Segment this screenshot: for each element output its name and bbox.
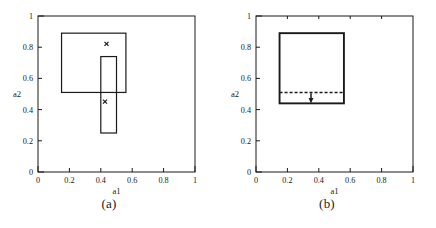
y-ticks-a (38, 16, 44, 172)
x-tick-label: 0.6 (345, 176, 355, 185)
y-tick-label: 0.4 (23, 106, 33, 115)
panel-b: 0 0.2 0.4 0.6 0.8 1 0 0.2 0.4 0.6 0.8 1 … (218, 0, 436, 228)
y-tick-label: 0.6 (241, 74, 251, 83)
x-tick-label: 0.8 (376, 176, 386, 185)
y-tick-label: 0 (247, 168, 251, 177)
y-tick-label: 0.8 (241, 43, 251, 52)
x-axis-title-b: a1 (330, 186, 338, 196)
x-tick-label: 0.8 (158, 176, 168, 185)
y-tick-label: 1 (29, 12, 33, 21)
x-tick-label: 0 (254, 176, 258, 185)
y-axis-title-a: a2 (13, 89, 21, 99)
y-tick-label: 0.4 (241, 106, 251, 115)
x-tick-label: 1 (193, 176, 197, 185)
down-arrow-icon (309, 93, 314, 103)
x-tick-label: 0.6 (127, 176, 137, 185)
x-tick-label: 0.2 (64, 176, 74, 185)
x-ticks-b (256, 166, 413, 172)
y-axis-title-b: a2 (231, 89, 239, 99)
cross-lower-icon (103, 100, 107, 104)
plot-a: 0 0.2 0.4 0.6 0.8 1 0 0.2 0.4 0.6 0.8 1 … (0, 0, 218, 196)
x-axis-title-a: a1 (112, 186, 120, 196)
x-ticks-a (38, 166, 195, 172)
x-tick-label: 0.4 (96, 176, 106, 185)
caption-a: (a) (0, 196, 218, 212)
y-tick-label: 1 (247, 12, 251, 21)
inner-box (101, 57, 117, 133)
y-tick-label: 0.2 (23, 137, 33, 146)
x-tick-label: 0.2 (282, 176, 292, 185)
panel-a: 0 0.2 0.4 0.6 0.8 1 0 0.2 0.4 0.6 0.8 1 … (0, 0, 218, 228)
x-tick-label: 0 (36, 176, 40, 185)
y-tick-label: 0.6 (23, 74, 33, 83)
y-tick-label: 0.2 (241, 137, 251, 146)
plot-b: 0 0.2 0.4 0.6 0.8 1 0 0.2 0.4 0.6 0.8 1 … (218, 0, 436, 196)
y-ticks-b (256, 16, 262, 172)
x-tick-label: 0.4 (314, 176, 324, 185)
cross-upper-icon (105, 42, 109, 46)
x-tick-label: 1 (411, 176, 415, 185)
y-tick-label: 0.8 (23, 43, 33, 52)
figure-container: 0 0.2 0.4 0.6 0.8 1 0 0.2 0.4 0.6 0.8 1 … (0, 0, 436, 228)
caption-b: (b) (218, 196, 436, 212)
y-tick-label: 0 (29, 168, 33, 177)
